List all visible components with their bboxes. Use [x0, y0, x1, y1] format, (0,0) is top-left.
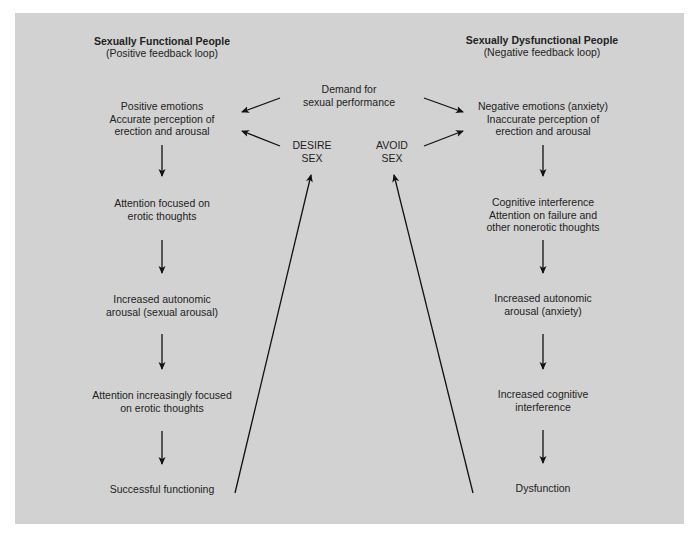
arrow-avoid-to-right-icon: [424, 131, 463, 146]
arrow-desire-to-left-icon: [242, 131, 280, 146]
arrow-feedback-avoid-icon: [394, 175, 473, 493]
arrow-demand-to-right-icon: [424, 98, 463, 112]
arrow-feedback-desire-icon: [235, 175, 311, 493]
arrows-layer: [0, 0, 697, 537]
arrow-demand-to-left-icon: [242, 98, 280, 112]
